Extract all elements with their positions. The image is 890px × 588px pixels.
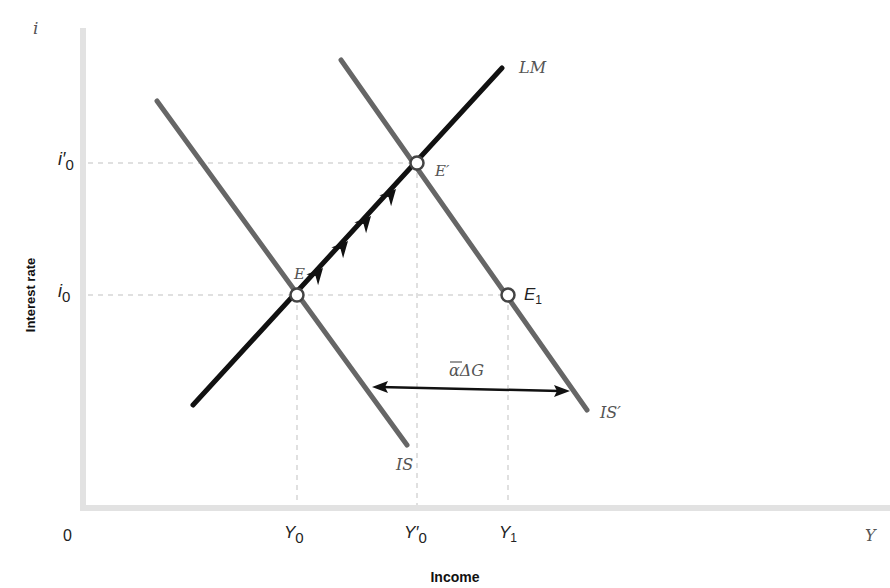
point-E1	[502, 289, 515, 302]
y-axis-symbol: i	[33, 18, 38, 38]
x-axis-symbol: Y	[865, 526, 877, 545]
is-lm-diagram: i i′0 i0 Interest rate 0 Y0 Y′0 Y1 Y Inc…	[0, 0, 890, 588]
tick-Y0-prime: Y′0	[404, 523, 427, 546]
lm-label: LM	[518, 58, 547, 77]
svg-text:Y0: Y0	[284, 523, 304, 546]
is-label: IS	[395, 455, 413, 474]
tick-i0: i0	[58, 281, 70, 305]
lm-curve	[193, 68, 502, 405]
tick-Y0: Y0	[284, 523, 304, 546]
x-axis-title: Income	[430, 569, 479, 585]
guide-lines	[88, 163, 508, 505]
shift-arrow	[372, 381, 570, 397]
tick-Y1: Y1	[499, 523, 517, 545]
tick-i0-prime: i′0	[58, 149, 74, 173]
point-E-label: E	[293, 265, 305, 283]
point-E	[291, 289, 304, 302]
is-curve	[157, 101, 407, 445]
svg-text:i′0: i′0	[58, 149, 74, 173]
adjustment-arrows	[306, 184, 402, 286]
svg-text:Y′0: Y′0	[404, 523, 427, 546]
svg-text:E1: E1	[524, 285, 542, 307]
point-E-prime	[411, 157, 424, 170]
shift-label: αΔG	[449, 361, 484, 380]
svg-text:i0: i0	[58, 281, 70, 305]
origin-label: 0	[63, 527, 72, 544]
svg-text:Y1: Y1	[499, 523, 517, 545]
y-axis-title: Interest rate	[23, 258, 38, 332]
point-E1-label: E1	[524, 285, 542, 307]
is-prime-label: IS′	[599, 403, 621, 422]
point-E-prime-label: E′	[434, 162, 450, 180]
